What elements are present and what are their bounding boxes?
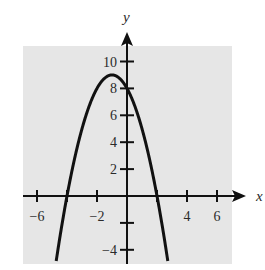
y-tick-label: 4: [110, 135, 117, 150]
parabola-graph: −6−246−4246810 x y: [0, 0, 265, 270]
y-tick-label: 8: [110, 81, 117, 96]
chart-canvas: −6−246−4246810 x y: [0, 0, 265, 270]
y-axis-label: y: [121, 9, 130, 25]
x-axis-label: x: [255, 188, 263, 204]
x-tick-label: −6: [30, 209, 45, 224]
x-tick-label: −2: [90, 209, 105, 224]
x-tick-label: 4: [184, 209, 191, 224]
y-tick-label: 6: [110, 108, 117, 123]
y-tick-label: −4: [102, 243, 117, 258]
y-tick-label: 2: [110, 162, 117, 177]
x-tick-label: 6: [214, 209, 221, 224]
y-tick-label: 10: [103, 55, 117, 70]
